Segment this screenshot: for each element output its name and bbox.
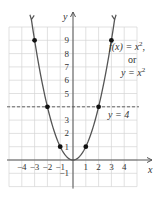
x-tick-label: 3 [109,162,114,172]
data-point [83,144,88,149]
x-tick-label: −3 [30,162,40,172]
function-label-or: or [128,54,137,65]
y-tick-label: 8 [65,49,70,59]
x-tick-label: 2 [96,162,101,172]
function-label: f(x) = x2, [109,40,145,53]
function-label-comma: , [143,41,146,52]
data-point [45,104,50,109]
data-point [58,144,63,149]
y-tick-label: 7 [65,62,70,72]
x-tick-label: −2 [43,162,53,172]
x-tick-label: 4 [122,162,127,172]
y-tick-label: −1 [59,168,69,178]
curve-arrow-right-icon [112,15,116,20]
x-axis-label: x [147,164,153,175]
function-label-text: f(x) = x [109,41,140,53]
reference-line-label: y = 4 [107,109,129,120]
x-tick-label: −4 [17,162,27,172]
data-point [96,104,101,109]
y-tick-label: 3 [65,115,70,125]
axes [7,12,152,189]
y-axis-label: y [62,11,68,22]
parabola-graph: −4−3−2−11234−112356789 x y f(x) = x2, or… [0,0,163,197]
function-label-alt-exponent: 2 [142,66,146,74]
function-label-alt-text: y = x [120,67,142,78]
curve-arrow-left-icon [30,15,34,20]
data-point [32,38,37,43]
y-tick-label: 9 [65,35,70,45]
y-tick-label: 1 [65,142,70,152]
y-tick-label: 6 [65,75,70,85]
y-tick-label: 5 [65,89,70,99]
function-label-alt: y = x2 [120,66,146,78]
x-tick-label: 1 [84,162,89,172]
y-tick-label: 2 [65,128,70,138]
